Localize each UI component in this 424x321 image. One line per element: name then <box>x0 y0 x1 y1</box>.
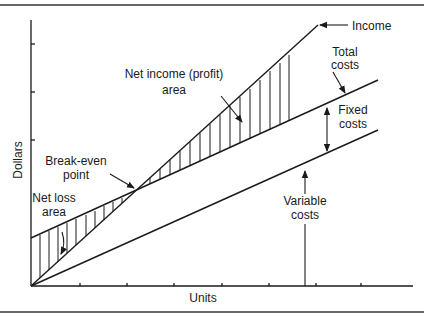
net-income-arrow <box>221 96 242 122</box>
net-loss-label-2: area <box>42 205 66 219</box>
net-income-label-1: Net income (profit) <box>125 67 224 81</box>
break-even-label-2: point <box>63 168 90 182</box>
income-label: Income <box>352 19 392 33</box>
net-income-label-2: area <box>162 83 186 97</box>
fixed-costs-label-2: costs <box>339 117 367 131</box>
variable-costs-label-2: costs <box>291 208 319 222</box>
break-even-chart: Dollars Units Income Total costs Net inc… <box>0 0 424 321</box>
break-even-label-1: Break-even <box>45 154 106 168</box>
variable-costs-label-1: Variable <box>283 194 326 208</box>
net-loss-label-1: Net loss <box>32 191 75 205</box>
x-axis-label: Units <box>189 291 216 305</box>
fixed-costs-label-1: Fixed <box>338 103 367 117</box>
total-costs-arrow <box>333 72 345 93</box>
total-costs-label-2: costs <box>331 58 359 72</box>
total-costs-label-1: Total <box>332 45 357 59</box>
y-axis-label: Dollars <box>11 141 25 178</box>
net-loss-arrow <box>61 232 64 254</box>
break-even-arrow <box>110 174 134 188</box>
